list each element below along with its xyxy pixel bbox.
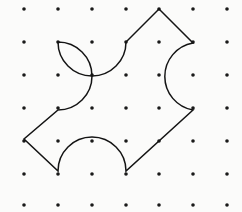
lattice-dot: [22, 40, 26, 44]
lattice-dot: [225, 106, 229, 110]
lattice-dot: [157, 203, 161, 207]
lattice-dot: [157, 40, 161, 44]
lattice-dot: [56, 139, 60, 143]
lattice-dot: [90, 172, 94, 176]
lattice-dot: [191, 73, 195, 77]
lattice-dot: [157, 106, 161, 110]
lattice-dot: [157, 73, 161, 77]
lattice-dot: [124, 172, 128, 176]
lattice-dot: [191, 139, 195, 143]
lattice-dot: [90, 7, 94, 11]
lattice-dot: [225, 40, 229, 44]
lattice-dot: [90, 40, 94, 44]
lattice-dot: [225, 172, 229, 176]
lattice-dot: [90, 139, 94, 143]
lattice-dot: [22, 172, 26, 176]
lattice-dot: [191, 172, 195, 176]
lattice-dot: [124, 7, 128, 11]
lattice-dot: [225, 7, 229, 11]
lattice-dot: [56, 7, 60, 11]
lattice-dot: [22, 106, 26, 110]
lattice-dot: [56, 203, 60, 207]
lattice-dot: [157, 172, 161, 176]
lattice-dot: [225, 73, 229, 77]
lattice-dot: [124, 203, 128, 207]
lattice-dot: [90, 106, 94, 110]
lattice-dot: [22, 203, 26, 207]
lattice-dot: [225, 139, 229, 143]
lattice-dot: [191, 7, 195, 11]
lattice-dot: [124, 106, 128, 110]
lattice-dot: [225, 203, 229, 207]
lattice-dot: [56, 172, 60, 176]
lattice-dot: [22, 7, 26, 11]
lattice-dot: [124, 73, 128, 77]
lattice-dot: [191, 203, 195, 207]
geometry-diagram: [0, 0, 242, 212]
figure-canvas: [0, 0, 242, 212]
lattice-dot: [22, 73, 26, 77]
canvas-background: [0, 0, 242, 212]
lattice-dot: [56, 73, 60, 77]
lattice-dot: [124, 139, 128, 143]
lattice-dot: [90, 203, 94, 207]
